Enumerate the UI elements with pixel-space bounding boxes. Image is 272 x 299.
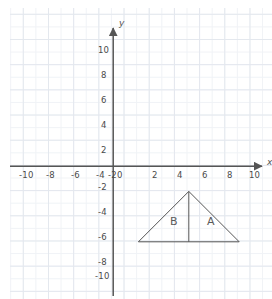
x-axis-label: x	[267, 157, 272, 167]
x-tick-label: -4	[96, 170, 105, 180]
y-tick-label: -8	[98, 257, 107, 267]
region-label-b: B	[170, 215, 178, 228]
y-axis-label: y	[119, 18, 124, 28]
x-tick-label: -10	[19, 170, 33, 180]
axes-and-shapes-svg	[0, 0, 272, 299]
y-tick-label: 6	[101, 95, 107, 105]
coordinate-plane-figure: -10 -8 -6 -4 -2 -2 0 2 4 6 8 10 10 8 6 4…	[0, 0, 272, 299]
x-tick-label: -8	[46, 170, 55, 180]
x-tick-label: 10	[249, 170, 260, 180]
y-tick-label: 4	[101, 120, 107, 130]
y-tick-label: -2	[98, 182, 107, 192]
y-tick-label: -10	[95, 271, 109, 281]
y-tick-label: 2	[101, 145, 107, 155]
y-tick-label: -4	[98, 207, 107, 217]
x-tick-label: 4	[177, 170, 183, 180]
x-tick-label: 6	[202, 170, 208, 180]
x-tick-label: 2	[152, 170, 158, 180]
y-tick-label: 8	[101, 70, 107, 80]
y-tick-label: 10	[98, 45, 109, 55]
x-tick-label: -6	[71, 170, 80, 180]
region-label-a: A	[207, 215, 215, 228]
origin-label: 0	[117, 170, 123, 180]
x-tick-label: 8	[227, 170, 233, 180]
x-tick-label-neg2: -2	[108, 170, 117, 180]
y-tick-label: -6	[98, 232, 107, 242]
